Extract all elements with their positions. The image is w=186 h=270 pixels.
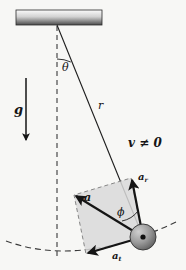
phi-angle-label: ϕ — [117, 207, 125, 218]
pendulum-bob — [130, 224, 156, 250]
gravity-label: g — [14, 103, 23, 116]
theta-angle-label: θ — [62, 62, 69, 73]
resultant-acceleration-label: a — [84, 192, 91, 203]
tangential-acceleration-label: at — [112, 251, 121, 262]
ceiling-support — [16, 10, 102, 25]
diagram-canvas — [0, 0, 186, 270]
bob-center-point — [140, 234, 145, 239]
tangential-accel-subscript: t — [118, 255, 121, 262]
radius-label: r — [98, 100, 103, 111]
velocity-note-label: v ≠ 0 — [128, 137, 162, 149]
radial-acceleration-label: ar — [138, 172, 148, 183]
physics-diagram-figure: g θ r v ≠ 0 ar a ϕ at — [0, 0, 186, 270]
radial-accel-subscript: r — [144, 176, 147, 183]
